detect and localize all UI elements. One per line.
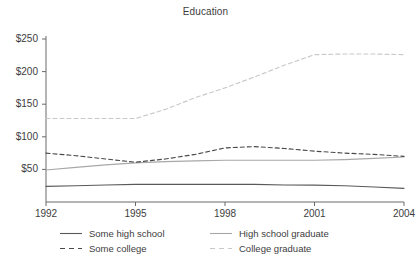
legend-label-college-graduate: College graduate [239,243,311,254]
legend-line-icon-some-college [60,244,82,253]
chart-legend: Some high school High school graduate So… [60,226,380,256]
data-series-group [46,54,404,188]
x-axis-tick-label: 1992 [26,209,66,219]
x-axis-tick-label: 2004 [384,209,420,219]
legend-entry-high-school-graduate: High school graduate [210,228,380,239]
legend-entry-college-graduate: College graduate [210,243,380,254]
legend-label-high-school-graduate: High school graduate [239,228,329,239]
y-axis-tick-label: $200 [4,67,38,77]
legend-entry-some-high-school: Some high school [60,228,210,239]
legend-label-some-college: Some college [89,243,147,254]
series-line-high-school-graduate [46,157,404,170]
y-axis-tick-label: $50 [4,164,38,174]
legend-entry-some-college: Some college [60,243,210,254]
y-axis-tick-label: $150 [4,99,38,109]
legend-line-icon-high-school-graduate [210,229,232,238]
axes [42,36,404,206]
x-axis-tick-label: 1995 [116,209,156,219]
legend-line-icon-some-high-school [60,229,82,238]
series-line-some-high-school [46,184,404,188]
series-line-college-graduate [46,54,404,119]
legend-label-some-high-school: Some high school [89,228,165,239]
y-axis-tick-label: $100 [4,132,38,142]
legend-row-2: Some college College graduate [60,241,380,256]
legend-line-icon-college-graduate [210,244,232,253]
legend-row-1: Some high school High school graduate [60,226,380,241]
y-axis-tick-label: $250 [4,34,38,44]
x-axis-tick-label: 2001 [295,209,335,219]
x-axis-tick-label: 1998 [205,209,245,219]
